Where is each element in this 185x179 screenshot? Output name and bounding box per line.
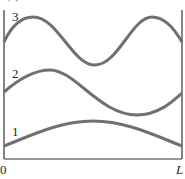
curve-1 [4,121,182,146]
curve-3-label: 3 [12,9,19,25]
curve-2-label: 2 [12,66,19,82]
partial-title: (a) [6,0,19,2]
curve-3 [4,17,182,65]
x-axis-start-label: 0 [0,162,7,178]
curve-1-label: 1 [12,124,19,140]
x-axis-end-label: L [176,162,183,178]
curve-2 [4,70,182,115]
standing-waves-plot: (a) [0,0,185,179]
